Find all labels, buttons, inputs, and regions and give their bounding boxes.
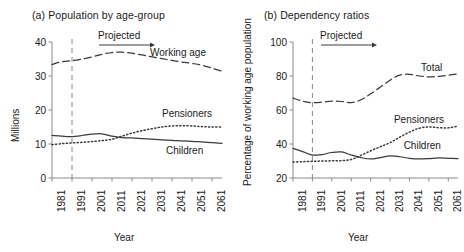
label-total-b: Total bbox=[421, 62, 442, 73]
x-tick-label-2041: 2041 bbox=[413, 190, 424, 212]
y-tick-label-20: 20 bbox=[263, 173, 287, 184]
x-tick-label-2001: 2001 bbox=[336, 190, 347, 212]
x-tick-label-1981: 1981 bbox=[56, 190, 67, 212]
label-pensioners-b: Pensioners bbox=[394, 114, 444, 125]
y-tick-label-40: 40 bbox=[22, 37, 46, 48]
x-tick-label-1981: 1981 bbox=[297, 190, 308, 212]
x-tick-label-2021: 2021 bbox=[136, 190, 147, 212]
y-tick-label-80: 80 bbox=[263, 71, 287, 82]
x-tick-label-2061: 2061 bbox=[216, 190, 227, 212]
panel-b-plot bbox=[0, 0, 464, 252]
x-tick-label-1991: 1991 bbox=[316, 190, 327, 212]
label-pensioners-a: Pensioners bbox=[162, 108, 212, 119]
y-tick-label-20: 20 bbox=[22, 105, 46, 116]
label-children-b: Children bbox=[404, 140, 441, 151]
label-children-a: Children bbox=[166, 145, 203, 156]
projected-label-b: Projected bbox=[320, 30, 362, 41]
y-tick-label-0: 0 bbox=[22, 173, 46, 184]
x-tick-label-1991: 1991 bbox=[76, 190, 87, 212]
y-tick-label-30: 30 bbox=[22, 71, 46, 82]
label-working-age-a: Working age bbox=[150, 47, 206, 58]
y-tick-label-100: 100 bbox=[263, 37, 287, 48]
y-tick-label-10: 10 bbox=[22, 139, 46, 150]
y-tick-label-60: 60 bbox=[263, 105, 287, 116]
x-tick-label-2031: 2031 bbox=[156, 190, 167, 212]
x-tick-label-2031: 2031 bbox=[394, 190, 405, 212]
x-tick-label-2051: 2051 bbox=[433, 190, 444, 212]
series-line-total bbox=[293, 74, 458, 103]
y-tick-label-40: 40 bbox=[263, 139, 287, 150]
x-tick-label-2041: 2041 bbox=[176, 190, 187, 212]
x-tick-label-2061: 2061 bbox=[452, 190, 463, 212]
x-tick-label-2001: 2001 bbox=[96, 190, 107, 212]
x-tick-label-2011: 2011 bbox=[116, 190, 127, 212]
x-tick-label-2051: 2051 bbox=[196, 190, 207, 212]
figure-container: (a) Population by age-group Millions Yea… bbox=[0, 0, 464, 252]
x-tick-label-2011: 2011 bbox=[355, 190, 366, 212]
projected-arrow-head bbox=[372, 42, 377, 47]
x-tick-label-2021: 2021 bbox=[375, 190, 386, 212]
projected-label-a: Projected bbox=[98, 30, 140, 41]
